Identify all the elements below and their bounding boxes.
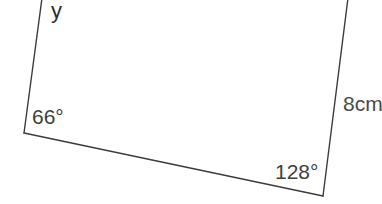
quadrilateral-shape <box>0 0 382 204</box>
side-length-label-right: 8cm <box>343 93 382 114</box>
unknown-angle-label: y <box>51 0 62 22</box>
angle-label-bottom-right: 128° <box>275 161 318 182</box>
angle-label-bottom-left: 66° <box>32 106 64 127</box>
geometry-diagram: y 66° 128° 8cm <box>0 0 382 204</box>
